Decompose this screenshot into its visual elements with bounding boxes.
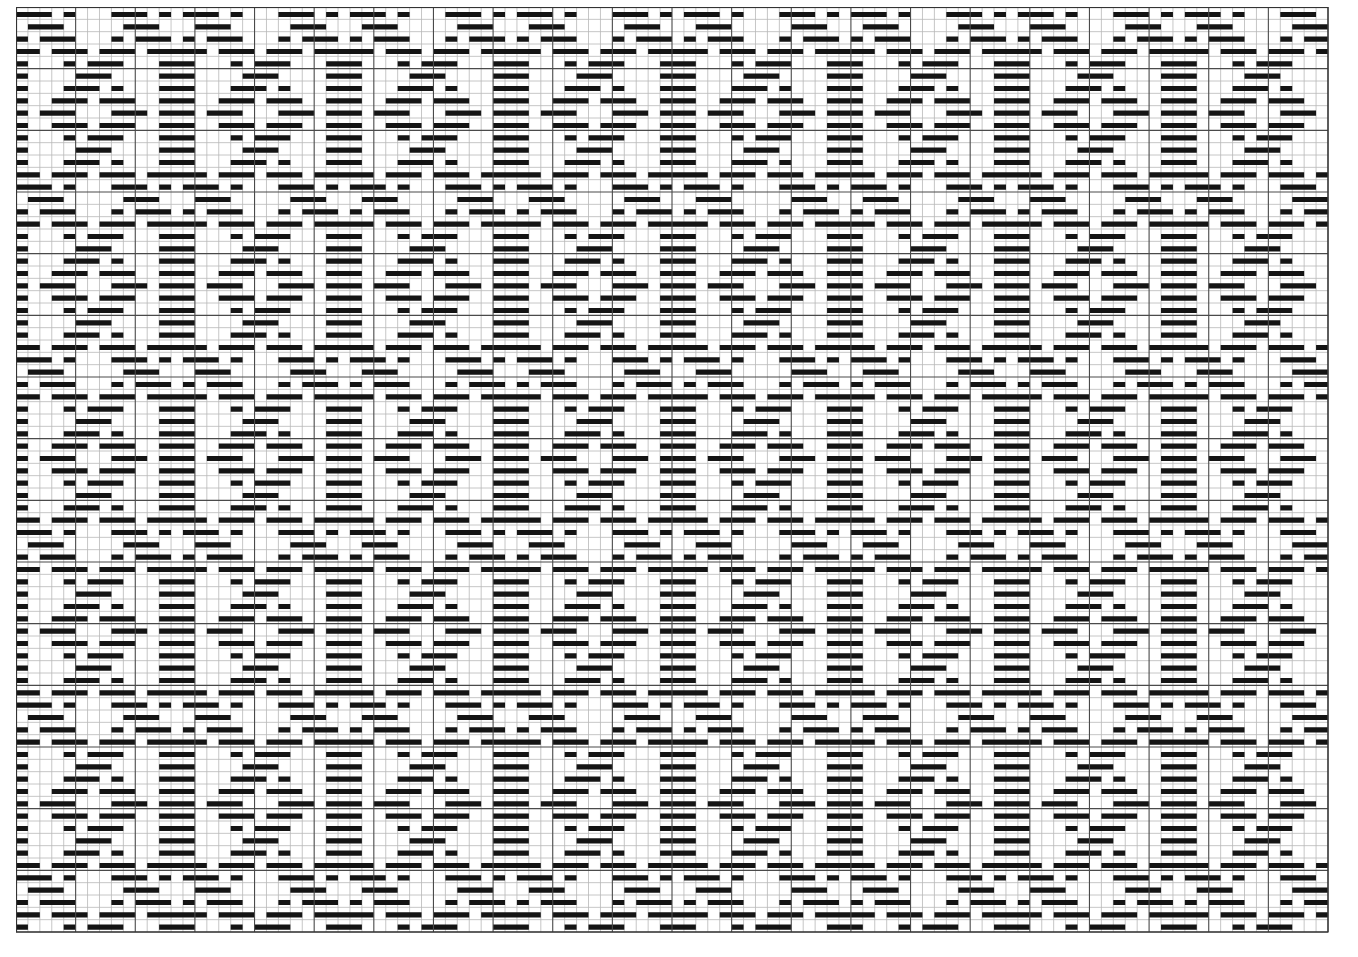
draft-grid: Weaving draft grid (16, 7, 1328, 932)
draft-grid-canvas (16, 7, 1329, 933)
